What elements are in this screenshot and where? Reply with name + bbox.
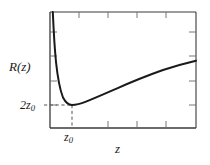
x-tick-label-z0: z0 [64,131,73,145]
top-axis-ticks [79,12,166,18]
y-axis-label-text: R(z) [9,59,31,74]
x-axis-label-text: z [115,141,120,156]
y-tick-label-subscript: 0 [31,103,35,113]
plot-frame [50,12,196,128]
y-tick-label-2z0: 2z0 [20,99,35,113]
x-axis-label: z [115,142,120,155]
right-axis-ticks [189,32,196,105]
plot-canvas [0,0,210,165]
y-axis-label: R(z) [9,60,31,73]
figure-container: R(z) 2z0 z0 z [0,0,210,165]
y-tick-label-base: 2z [20,98,31,112]
bottom-axis-ticks [108,121,166,128]
x-tick-label-subscript: 0 [69,135,73,145]
curve-Rz [53,12,196,105]
